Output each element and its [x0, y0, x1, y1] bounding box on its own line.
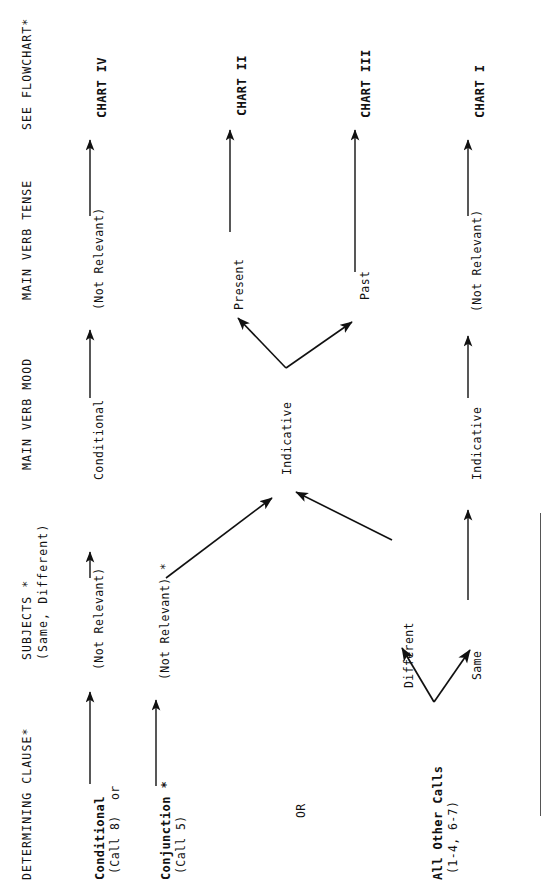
- node-conjunction-source-sublabel: (Call 5): [176, 815, 188, 874]
- node-conditional-mood: Conditional: [94, 399, 106, 480]
- connector-or-uppercase: OR: [296, 803, 308, 818]
- arrow-different-to-indicative: [296, 492, 392, 540]
- node-all-other-calls-subjects-different: Different: [404, 622, 416, 688]
- node-conditional-tense: (Not Relevant): [94, 207, 106, 310]
- node-all-other-calls-subjects-same: Same: [472, 651, 484, 680]
- node-all-other-calls-tense: (Not Relevant): [472, 209, 484, 312]
- header-main-verb-tense: MAIN VERB TENSE: [22, 180, 34, 300]
- page-edge-rule: [540, 513, 541, 816]
- result-chart-i: CHART I: [474, 65, 486, 118]
- node-conditional-source: Conditional: [94, 796, 106, 880]
- node-all-other-calls-source-sublabel: (1-4, 6-7): [448, 801, 460, 874]
- header-see-flowchart: SEE FLOWCHART*: [22, 18, 34, 130]
- node-present-tense: Present: [234, 259, 246, 310]
- flowchart-arrows: [0, 0, 548, 894]
- header-subjects: SUBJECTS *: [22, 580, 34, 660]
- result-chart-iv: CHART IV: [96, 57, 108, 118]
- arrow-all-other-calls-to-same: [434, 650, 470, 702]
- flowchart-page: DETERMINING CLAUSE* SUBJECTS * (Same, Di…: [0, 0, 548, 894]
- node-shared-indicative-mood: Indicative: [282, 402, 294, 475]
- node-conditional-source-sublabel: (Call 8): [110, 815, 122, 874]
- result-chart-iii: CHART III: [360, 49, 372, 118]
- result-chart-ii: CHART II: [236, 55, 248, 116]
- node-all-other-calls-mood: Indicative: [472, 407, 484, 480]
- arrow-indicative-to-present: [238, 318, 286, 368]
- arrow-conjunction-subjects-to-indicative: [166, 498, 272, 578]
- node-conditional-subjects: (Not Relevant): [94, 567, 106, 670]
- arrow-indicative-to-past: [286, 322, 352, 368]
- node-conjunction-subjects: (Not Relevant) *: [160, 563, 172, 680]
- node-conjunction-source: Conjunction *: [160, 781, 172, 880]
- connector-or-lowercase: or: [110, 785, 122, 800]
- header-main-verb-mood: MAIN VERB MOOD: [22, 358, 34, 470]
- node-past-tense: Past: [360, 271, 372, 300]
- header-subjects-sublabel: (Same, Different): [38, 524, 50, 660]
- header-determining-clause: DETERMINING CLAUSE*: [22, 728, 34, 880]
- node-all-other-calls-source: All Other Calls: [432, 766, 444, 880]
